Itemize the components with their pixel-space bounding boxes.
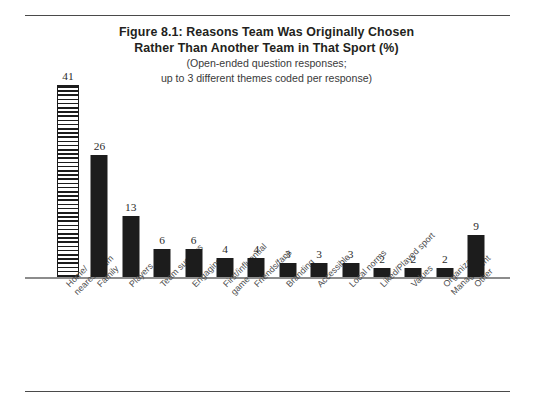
bar-value-label: 3	[316, 248, 322, 260]
bar-value-label: 2	[411, 253, 417, 265]
bar-value-label: 41	[62, 70, 73, 82]
bar-value-label: 6	[191, 234, 197, 246]
bar-value-label: 9	[473, 220, 479, 232]
bar-slot: 26	[84, 77, 114, 277]
bar-chart-plot-area: 41Home/nearest team26Family13Players6Tea…	[0, 0, 533, 404]
bar-slot: 41	[53, 77, 83, 277]
bar-slot: 6	[179, 77, 209, 277]
bar-slot: 3	[304, 77, 334, 277]
bar-value-label: 4	[254, 243, 260, 255]
bar-value-label: 6	[159, 234, 165, 246]
bar-slot: 13	[116, 77, 146, 277]
bar-value-label: 13	[125, 201, 136, 213]
bar-slot: 2	[398, 77, 428, 277]
bar-value-label: 2	[379, 253, 385, 265]
bar-slot: 3	[273, 77, 303, 277]
bar-slot: 2	[430, 77, 460, 277]
bar-slot: 2	[367, 77, 397, 277]
bar-value-label: 26	[94, 140, 105, 152]
bar[interactable]	[57, 85, 79, 277]
bar[interactable]	[91, 155, 108, 277]
bar-slot: 3	[336, 77, 366, 277]
bar-value-label: 3	[285, 248, 291, 260]
bar-value-label: 2	[442, 253, 448, 265]
bar-value-label: 3	[348, 248, 354, 260]
bar[interactable]	[122, 216, 139, 277]
bar-slot: 6	[147, 77, 177, 277]
figure-container: Figure 8.1: Reasons Team Was Originally …	[0, 0, 533, 404]
bar-slot: 4	[210, 77, 240, 277]
bar-value-label: 4	[222, 243, 228, 255]
bar-slot: 4	[241, 77, 271, 277]
bar-slot: 9	[461, 77, 491, 277]
